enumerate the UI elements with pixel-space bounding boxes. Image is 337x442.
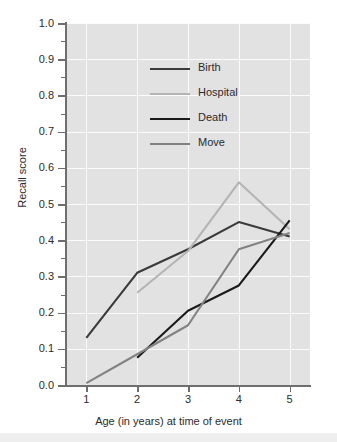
legend-label: Birth (198, 61, 221, 73)
y-tick-label: 0.1 (14, 343, 54, 354)
series-line-hospital (137, 182, 289, 292)
y-tick-minor (61, 258, 65, 259)
x-tick-label: 5 (278, 394, 302, 405)
y-tick-minor (61, 114, 65, 115)
y-tick (58, 23, 65, 25)
y-tick-label: 0.3 (14, 271, 54, 282)
y-tick-minor (61, 77, 65, 78)
y-tick (58, 168, 65, 170)
y-tick-label: 0.8 (14, 90, 54, 101)
y-tick-label: 0.9 (14, 54, 54, 65)
y-axis-label: Recall score (17, 118, 28, 238)
legend-item-hospital: Hospital (150, 83, 270, 108)
x-tick-label: 4 (227, 394, 251, 405)
y-tick-minor (61, 367, 65, 368)
y-tick-minor (61, 295, 65, 296)
y-tick (58, 132, 65, 134)
y-tick-minor (61, 186, 65, 187)
legend-item-birth: Birth (150, 58, 270, 83)
y-tick (58, 59, 65, 61)
y-tick (58, 313, 65, 315)
legend-label: Hospital (198, 86, 238, 98)
y-tick-minor (61, 222, 65, 223)
chart-figure: 0.00.10.20.30.40.50.60.70.80.91.0 12345 … (0, 0, 337, 442)
y-tick-minor (61, 41, 65, 42)
x-axis-label: Age (in years) at time of event (0, 416, 337, 427)
x-tick (239, 386, 241, 392)
y-tick-minor (61, 331, 65, 332)
series-line-move (86, 233, 289, 383)
x-tick-label: 2 (125, 394, 149, 405)
y-axis-spine (65, 22, 67, 386)
legend-swatch-hospital (150, 93, 190, 95)
legend-swatch-move (150, 143, 190, 145)
legend: BirthHospitalDeathMove (150, 58, 270, 158)
legend-swatch-death (150, 118, 190, 120)
series-line-birth (86, 222, 289, 338)
legend-label: Move (198, 136, 225, 148)
legend-item-move: Move (150, 133, 270, 158)
x-tick-label: 3 (176, 394, 200, 405)
y-tick-minor (61, 150, 65, 151)
x-tick (86, 386, 88, 392)
x-tick-label: 1 (74, 394, 98, 405)
page-edge-band (0, 433, 337, 442)
y-tick (58, 240, 65, 242)
y-tick-label: 0.0 (14, 380, 54, 391)
legend-item-death: Death (150, 108, 270, 133)
y-tick (58, 95, 65, 97)
y-tick (58, 276, 65, 278)
legend-label: Death (198, 111, 227, 123)
y-tick-label: 1.0 (14, 18, 54, 29)
legend-swatch-birth (150, 68, 190, 70)
y-tick (58, 204, 65, 206)
x-tick (290, 386, 292, 392)
x-tick (137, 386, 139, 392)
y-tick (58, 349, 65, 351)
y-tick-label: 0.2 (14, 307, 54, 318)
x-tick (188, 386, 190, 392)
y-tick (58, 385, 65, 387)
